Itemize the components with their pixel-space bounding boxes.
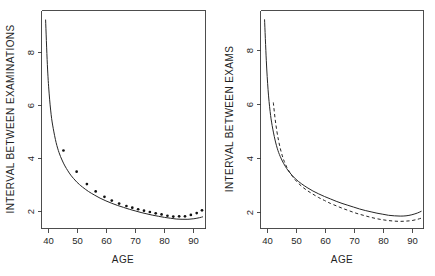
y-tick-label: 8	[25, 50, 36, 55]
y-tick-label: 6	[244, 102, 255, 107]
x-axis-ticks-left	[49, 229, 194, 233]
axis-frame-right	[261, 11, 424, 229]
y-tick-label: 2	[244, 210, 255, 215]
x-tick-label: 60	[320, 235, 331, 246]
data-point	[143, 209, 146, 212]
data-point	[154, 212, 157, 215]
y-tick-label: 4	[25, 156, 36, 161]
chart-panel-right: 8 6 4 2 40 50 60 70 80 90 AGE	[218, 0, 435, 276]
solid-curve	[265, 20, 422, 216]
data-point	[75, 170, 78, 173]
data-point	[62, 149, 65, 152]
x-axis-title-left: AGE	[112, 254, 134, 265]
y-axis-ticks-right	[257, 51, 261, 213]
chart-svg-left: 8 6 4 2 40 50 60 70 80 90	[0, 0, 218, 276]
data-point	[149, 211, 152, 214]
figure-container: 8 6 4 2 40 50 60 70 80 90	[0, 0, 435, 276]
y-axis-tick-labels-left: 8 6 4 2	[25, 50, 36, 214]
x-tick-label: 50	[291, 235, 302, 246]
y-axis-tick-labels-right: 8 6 4 2	[244, 48, 255, 215]
data-point	[195, 212, 198, 215]
data-point	[110, 199, 113, 202]
x-axis-title-right: AGE	[331, 254, 353, 265]
dashed-curve	[273, 102, 421, 221]
data-point	[172, 215, 175, 218]
x-tick-label: 70	[130, 235, 141, 246]
x-tick-label: 70	[349, 235, 360, 246]
data-point	[137, 208, 140, 211]
data-point	[184, 215, 187, 218]
x-tick-label: 80	[159, 235, 170, 246]
x-tick-label: 90	[407, 235, 418, 246]
data-point	[103, 195, 106, 198]
data-point	[94, 190, 97, 193]
chart-panel-left: 8 6 4 2 40 50 60 70 80 90	[0, 0, 218, 276]
chart-svg-right: 8 6 4 2 40 50 60 70 80 90 AGE	[218, 0, 435, 276]
x-axis-tick-labels-left: 40 50 60 70 80 90	[43, 235, 199, 246]
data-point	[201, 209, 204, 212]
series-group-left	[46, 20, 204, 219]
x-axis-tick-labels-right: 40 50 60 70 80 90	[262, 235, 418, 246]
data-point	[160, 213, 163, 216]
x-tick-label: 40	[262, 235, 273, 246]
data-point	[131, 206, 134, 209]
data-point	[166, 214, 169, 217]
x-tick-label: 40	[43, 235, 54, 246]
y-axis-ticks-left	[38, 53, 42, 212]
x-tick-label: 90	[188, 235, 199, 246]
x-tick-label: 50	[72, 235, 83, 246]
data-point	[125, 205, 128, 208]
y-axis-title-right: INTERVAL BETWEEN EXAMS	[224, 46, 235, 192]
y-tick-label: 2	[25, 209, 36, 214]
data-point	[86, 183, 89, 186]
y-tick-label: 8	[244, 48, 255, 53]
series-group-right	[265, 20, 422, 222]
x-tick-label: 80	[378, 235, 389, 246]
x-axis-ticks-right	[268, 229, 413, 233]
data-point	[190, 214, 193, 217]
y-tick-label: 6	[25, 103, 36, 108]
y-tick-label: 4	[244, 156, 255, 161]
solid-curve	[46, 20, 203, 219]
y-axis-title-left: INTERVAL BETWEEN EXAMINATIONS	[5, 24, 16, 213]
x-tick-label: 60	[101, 235, 112, 246]
data-point	[178, 215, 181, 218]
axis-frame-left	[42, 11, 206, 229]
data-point	[118, 202, 121, 205]
